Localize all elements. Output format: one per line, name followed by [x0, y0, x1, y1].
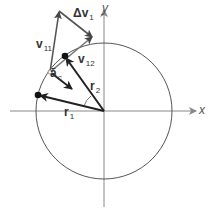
- r1-label: r1: [64, 106, 74, 121]
- angle-arc: [84, 96, 91, 106]
- position-2-dot: [62, 53, 69, 60]
- circular-motion-diagram: [0, 0, 217, 216]
- position-1-dot: [35, 92, 42, 99]
- ac-label: āc: [50, 67, 62, 82]
- r2-label: r2: [90, 80, 100, 95]
- v11-label: v11: [36, 38, 52, 53]
- x-axis-label: x: [199, 104, 205, 116]
- v12-label: v12: [78, 53, 95, 68]
- y-axis-label: y: [102, 2, 108, 14]
- delta-v-label: Δv1: [73, 7, 94, 22]
